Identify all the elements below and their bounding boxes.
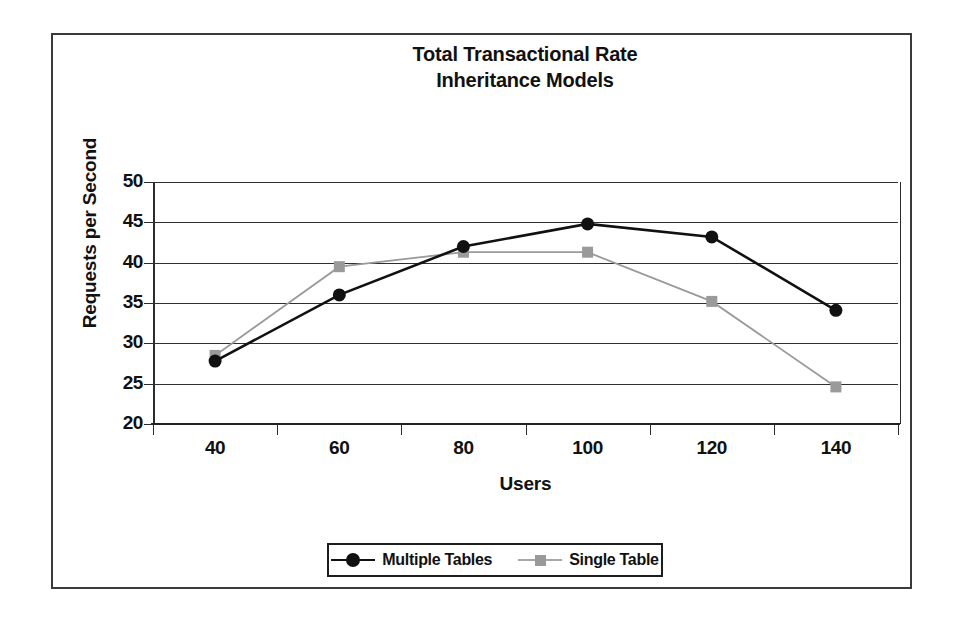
x-axis-title: Users <box>153 473 898 495</box>
legend-entry-single-table: Single Table <box>518 551 658 569</box>
y-axis-tick-label: 50 <box>97 170 143 192</box>
x-axis-tick <box>277 424 278 435</box>
legend-label-multiple-tables: Multiple Tables <box>382 551 492 569</box>
y-axis-tick <box>144 263 153 264</box>
y-axis-tick <box>144 222 153 223</box>
gridline <box>153 182 898 183</box>
y-axis-tick-label: 20 <box>97 412 143 434</box>
y-axis-tick <box>144 343 153 344</box>
legend-label-single-table: Single Table <box>569 551 658 569</box>
y-axis-tick-label: 45 <box>97 210 143 232</box>
gridline <box>153 303 898 304</box>
x-axis-tick-label: 80 <box>423 437 503 459</box>
y-axis-tick-label: 25 <box>97 372 143 394</box>
y-axis-tick <box>144 303 153 304</box>
x-axis-tick <box>650 424 651 435</box>
gridline <box>153 222 898 223</box>
gridline <box>153 263 898 264</box>
chart-title-line-1: Total Transactional Rate <box>150 42 900 68</box>
x-axis-tick <box>898 424 899 435</box>
y-axis-tick-label: 40 <box>97 251 143 273</box>
gridline <box>153 343 898 344</box>
x-axis-tick-label: 100 <box>548 437 628 459</box>
x-axis-tick <box>774 424 775 435</box>
y-axis-tick <box>144 182 153 183</box>
legend-entry-multiple-tables: Multiple Tables <box>331 551 492 569</box>
x-axis-tick <box>401 424 402 435</box>
gridline <box>153 384 898 385</box>
x-axis-tick <box>153 424 154 435</box>
square-marker-icon <box>518 552 562 568</box>
x-axis-tick-label: 40 <box>175 437 255 459</box>
x-axis-tick-label: 120 <box>672 437 752 459</box>
y-axis-tick-label: 30 <box>97 331 143 353</box>
chart-title-line-2: Inheritance Models <box>150 68 900 94</box>
chart-title: Total Transactional Rate Inheritance Mod… <box>150 42 900 93</box>
y-axis-tick <box>144 384 153 385</box>
x-axis-tick <box>526 424 527 435</box>
legend: Multiple Tables Single Table <box>327 543 663 577</box>
circle-marker-icon <box>331 552 375 568</box>
x-axis-tick-label: 140 <box>796 437 876 459</box>
y-axis-tick-label: 35 <box>97 291 143 313</box>
chart-figure: Total Transactional Rate Inheritance Mod… <box>0 0 957 617</box>
x-axis-tick-label: 60 <box>299 437 379 459</box>
